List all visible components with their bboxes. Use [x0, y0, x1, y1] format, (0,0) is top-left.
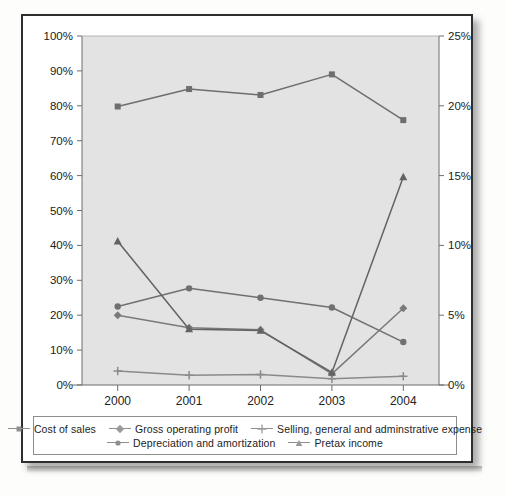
- circle-marker-icon: [107, 438, 129, 447]
- svg-text:80%: 80%: [50, 100, 73, 112]
- svg-text:2000: 2000: [104, 394, 131, 408]
- svg-text:20%: 20%: [50, 309, 73, 321]
- svg-text:100%: 100%: [44, 30, 73, 42]
- svg-text:30%: 30%: [50, 274, 73, 286]
- legend-label: Selling, general and adminstrative expen…: [277, 423, 482, 435]
- legend-item-depreciation-amortization[interactable]: Depreciation and amortization: [107, 437, 275, 449]
- page-shadow: [27, 466, 482, 473]
- legend-label: Cost of sales: [34, 423, 96, 435]
- svg-text:40%: 40%: [50, 239, 73, 251]
- square-marker-icon: [8, 424, 30, 433]
- svg-text:2004: 2004: [390, 394, 417, 408]
- svg-text:2002: 2002: [247, 394, 274, 408]
- legend-item-pretax-income[interactable]: Pretax income: [288, 437, 382, 449]
- legend-row-1: Cost of sales Gross operating profit Sel…: [8, 423, 482, 435]
- svg-text:60%: 60%: [50, 170, 73, 182]
- svg-text:25%: 25%: [448, 30, 471, 42]
- legend-item-cost-of-sales[interactable]: Cost of sales: [8, 423, 96, 435]
- legend-label: Depreciation and amortization: [133, 437, 275, 449]
- svg-text:10%: 10%: [50, 344, 73, 356]
- diamond-marker-icon: [109, 424, 131, 433]
- svg-text:15%: 15%: [448, 170, 471, 182]
- svg-text:5%: 5%: [448, 309, 465, 321]
- legend-label: Gross operating profit: [135, 423, 238, 435]
- svg-text:50%: 50%: [50, 205, 73, 217]
- plus-marker-icon: [251, 424, 273, 433]
- legend-item-sga-expense[interactable]: Selling, general and adminstrative expen…: [251, 423, 482, 435]
- chart-legend: Cost of sales Gross operating profit Sel…: [33, 416, 457, 455]
- svg-text:2001: 2001: [176, 394, 203, 408]
- svg-text:70%: 70%: [50, 135, 73, 147]
- chart-plot-area: 0%10%20%30%40%50%60%70%80%90%100%0%5%10%…: [23, 16, 471, 412]
- svg-text:0%: 0%: [56, 379, 73, 391]
- svg-text:2003: 2003: [319, 394, 346, 408]
- svg-text:20%: 20%: [448, 100, 471, 112]
- svg-text:90%: 90%: [50, 65, 73, 77]
- svg-text:10%: 10%: [448, 239, 471, 251]
- line-chart-svg: 0%10%20%30%40%50%60%70%80%90%100%0%5%10%…: [23, 16, 471, 412]
- legend-row-2: Depreciation and amortization Pretax inc…: [107, 437, 383, 449]
- legend-label: Pretax income: [314, 437, 382, 449]
- legend-item-gross-operating-profit[interactable]: Gross operating profit: [109, 423, 238, 435]
- chart-card: 0%10%20%30%40%50%60%70%80%90%100%0%5%10%…: [21, 14, 473, 463]
- triangle-marker-icon: [288, 438, 310, 447]
- svg-text:0%: 0%: [448, 379, 465, 391]
